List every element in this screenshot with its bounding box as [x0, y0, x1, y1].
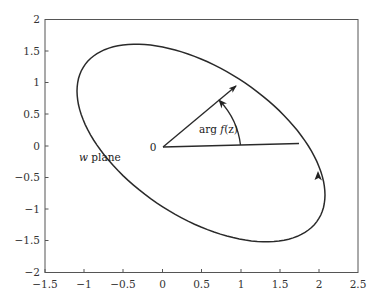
x-tick-label: 1: [238, 278, 245, 290]
x-tick-label: 0.5: [193, 278, 210, 290]
x-tick-label: 1.5: [272, 278, 289, 290]
x-tick-label: 0: [159, 278, 166, 290]
w-plane-label: w plane: [79, 151, 121, 163]
y-tick-label: 0.5: [23, 108, 40, 120]
origin-label: 0: [150, 141, 157, 153]
y-tick-label: −1: [25, 203, 40, 215]
y-tick-label: 2: [33, 13, 40, 25]
y-tick-label: 1: [33, 76, 40, 88]
y-tick-label: 0: [33, 140, 40, 152]
chart-canvas: −1.5 −1 −0.5 0 0.5 1 1.5 2 2.5 2 1.5 1 0…: [0, 0, 383, 303]
arg-paren: (z): [224, 123, 238, 135]
image-contour-ellipse: [77, 44, 325, 242]
y-tick-label: −2: [25, 266, 40, 278]
x-tick-label: −0.5: [110, 278, 136, 290]
plane-w: w: [79, 151, 88, 163]
y-axis-labels: 2 1.5 1 0.5 0 −0.5 −1 −1.5 −2: [15, 13, 41, 278]
y-tick-label: 1.5: [23, 45, 40, 57]
y-axis-ticks: [45, 51, 49, 241]
arg-prefix: arg: [199, 123, 220, 135]
y-tick-label: −1.5: [15, 234, 41, 246]
x-tick-label: −1.5: [32, 278, 58, 290]
arg-label: arg f(z): [199, 123, 238, 135]
ray-right: [163, 144, 299, 148]
plane-word: plane: [88, 151, 121, 163]
x-tick-label: 2: [316, 278, 323, 290]
ray-upper: [163, 86, 236, 147]
x-tick-label: −1: [76, 278, 91, 290]
x-tick-label: 2.5: [350, 278, 367, 290]
x-axis-labels: −1.5 −1 −0.5 0 0.5 1 1.5 2 2.5: [32, 278, 366, 290]
y-tick-label: −0.5: [15, 171, 41, 183]
x-axis-ticks: [45, 269, 319, 273]
